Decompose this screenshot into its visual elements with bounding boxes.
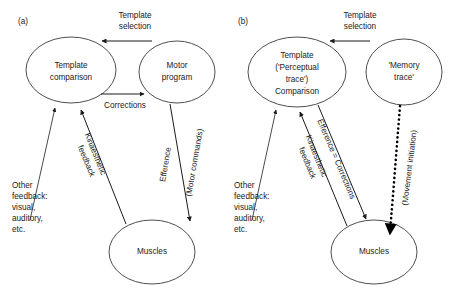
node-template-comparison-b-line4: Comparison	[275, 87, 320, 96]
edge-motor-commands-a-line1: (Motor commands)	[184, 128, 205, 197]
edge-other-feedback-a-line5: etc.	[12, 225, 25, 234]
node-motor-program-a-line2: program	[162, 73, 193, 82]
edge-other-feedback-b-line3: visual,	[234, 203, 257, 212]
node-template-comparison-b-line3: trace')	[286, 75, 309, 84]
edge-corrections-a-line1: Corrections	[104, 101, 146, 110]
edge-other-feedback-a-line4: auditory,	[12, 214, 43, 223]
node-motor-program-a[interactable]	[139, 41, 215, 103]
edge-movement-initiation-b-line1: (Movement initiation)	[400, 129, 418, 206]
edge-other-feedback-a-line3: visual,	[12, 203, 35, 212]
node-template-comparison-a-line2: comparison	[50, 73, 93, 82]
panel-b-label: (b)	[238, 17, 248, 26]
node-template-comparison-b-line2: ('Perceptual	[275, 63, 319, 72]
edge-movement-initiation-b	[390, 106, 400, 233]
edge-template-selection-a-line1: Template	[118, 11, 152, 20]
panel-b: (b) Template ('Perceptual trace') Compar…	[234, 11, 442, 284]
node-template-comparison-a-line1: Template	[54, 61, 88, 70]
edge-other-feedback-b-line5: etc.	[234, 225, 247, 234]
edge-other-feedback-b-line2: feedback:	[234, 192, 270, 201]
edge-template-selection-a-line2: selection	[119, 22, 152, 31]
edge-template-selection-b-line1: Template	[343, 11, 377, 20]
edge-efference-a	[170, 104, 190, 221]
node-memory-trace-b-line2: trace'	[394, 73, 414, 82]
panel-a-label: (a)	[18, 17, 28, 26]
edge-other-feedback-a-line2: feedback:	[12, 192, 48, 201]
edge-efference-a-line1: Efference	[158, 146, 173, 182]
node-memory-trace-b[interactable]	[366, 39, 442, 105]
diagram-svg: (a) Template comparison Motor program Mu…	[0, 0, 455, 295]
node-template-comparison-b-line1: Template	[280, 51, 314, 60]
node-memory-trace-b-line1: 'Memory	[388, 61, 420, 70]
edge-template-selection-b-line2: selection	[344, 22, 377, 31]
edge-other-feedback-b-line4: auditory,	[234, 214, 265, 223]
node-muscles-a-line1: Muscles	[137, 247, 167, 256]
edge-other-feedback-b-line1: Other	[234, 181, 255, 190]
figure-canvas: (a) Template comparison Motor program Mu…	[0, 0, 455, 295]
panel-a: (a) Template comparison Motor program Mu…	[12, 11, 215, 284]
edge-other-feedback-a-line1: Other	[12, 181, 33, 190]
node-motor-program-a-line1: Motor	[167, 61, 188, 70]
node-muscles-b-line1: Muscles	[359, 247, 389, 256]
